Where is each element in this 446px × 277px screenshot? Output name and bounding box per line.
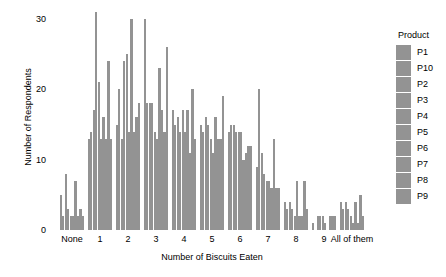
- legend-swatch: [396, 157, 411, 172]
- bar[interactable]: [306, 209, 308, 230]
- legend-label: P8: [417, 175, 428, 185]
- bar[interactable]: [362, 216, 364, 230]
- legend-item[interactable]: P4: [396, 108, 446, 124]
- y-tick-label: 0: [14, 225, 46, 235]
- legend-item[interactable]: P10: [396, 60, 446, 76]
- legend-swatch: [396, 173, 411, 188]
- legend-swatch: [396, 77, 411, 92]
- bar-group: [338, 12, 366, 230]
- legend-label: P7: [417, 159, 428, 169]
- bar-group: [142, 12, 170, 230]
- bar[interactable]: [82, 216, 84, 230]
- bar[interactable]: [278, 188, 280, 230]
- x-tick-label: 2: [125, 234, 130, 244]
- x-axis-tick-labels: None123456789All of them: [58, 234, 366, 248]
- bar[interactable]: [250, 146, 252, 230]
- bar-group: [170, 12, 198, 230]
- y-tick-label: 10: [14, 155, 46, 165]
- bar[interactable]: [222, 96, 224, 230]
- legend-label: P1: [417, 47, 428, 57]
- bar-group: [198, 12, 226, 230]
- legend-swatch: [396, 141, 411, 156]
- bar-group: [310, 12, 338, 230]
- bar-group: [282, 12, 310, 230]
- bar-group: [58, 12, 86, 230]
- x-tick-label: 8: [293, 234, 298, 244]
- bar[interactable]: [312, 223, 314, 230]
- x-tick-label: 7: [265, 234, 270, 244]
- bar[interactable]: [324, 223, 326, 230]
- legend-swatch: [396, 125, 411, 140]
- bar[interactable]: [334, 216, 336, 230]
- x-tick-label: 9: [321, 234, 326, 244]
- bar[interactable]: [166, 47, 168, 230]
- x-tick-label: 3: [153, 234, 158, 244]
- legend-item[interactable]: P1: [396, 44, 446, 60]
- legend-item[interactable]: P9: [396, 188, 446, 204]
- bar-group: [86, 12, 114, 230]
- legend-label: P4: [417, 111, 428, 121]
- legend-swatch: [396, 45, 411, 60]
- x-tick-label: All of them: [331, 234, 374, 244]
- x-tick-label: None: [61, 234, 83, 244]
- y-axis-tick-labels: 0102030: [14, 0, 46, 277]
- bar-group: [114, 12, 142, 230]
- legend-label: P3: [417, 95, 428, 105]
- plot-panel: [58, 12, 366, 230]
- legend: Product P1P10P2P3P4P5P6P7P8P9: [396, 30, 446, 204]
- bar-group: [254, 12, 282, 230]
- legend-swatch: [396, 93, 411, 108]
- x-axis-title: Number of Biscuits Eaten: [58, 252, 366, 262]
- legend-swatch: [396, 109, 411, 124]
- legend-label: P2: [417, 79, 428, 89]
- legend-item[interactable]: P5: [396, 124, 446, 140]
- legend-item[interactable]: P3: [396, 92, 446, 108]
- legend-swatch: [396, 61, 411, 76]
- legend-label: P9: [417, 191, 428, 201]
- legend-label: P6: [417, 143, 428, 153]
- y-tick-label: 30: [14, 14, 46, 24]
- legend-label: P10: [417, 63, 433, 73]
- x-tick-label: 5: [209, 234, 214, 244]
- legend-item[interactable]: P8: [396, 172, 446, 188]
- bar[interactable]: [110, 139, 112, 230]
- y-tick-label: 20: [14, 84, 46, 94]
- x-tick-label: 6: [237, 234, 242, 244]
- legend-item[interactable]: P7: [396, 156, 446, 172]
- legend-items: P1P10P2P3P4P5P6P7P8P9: [396, 44, 446, 204]
- legend-item[interactable]: P2: [396, 76, 446, 92]
- bar[interactable]: [194, 139, 196, 230]
- bar-chart: Number of Respondents 0102030 None123456…: [0, 0, 446, 277]
- legend-swatch: [396, 189, 411, 204]
- legend-label: P5: [417, 127, 428, 137]
- legend-title: Product: [398, 30, 446, 40]
- legend-item[interactable]: P6: [396, 140, 446, 156]
- bar[interactable]: [138, 103, 140, 230]
- bar-group: [226, 12, 254, 230]
- x-tick-label: 1: [97, 234, 102, 244]
- x-tick-label: 4: [181, 234, 186, 244]
